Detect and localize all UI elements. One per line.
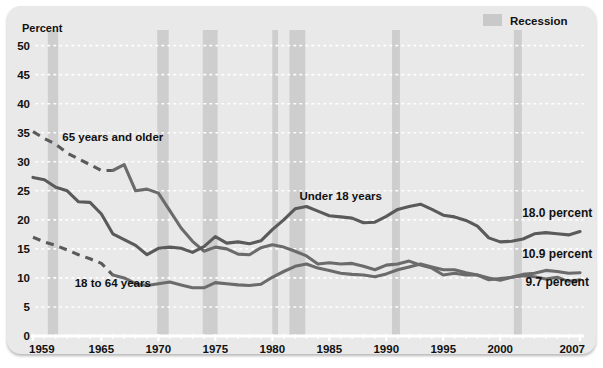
x-tick-label: 1965 [89, 343, 115, 355]
chart-annotations: 65 years and olderUnder 18 years18 to 64… [62, 131, 592, 289]
x-tick-label: 1995 [430, 343, 456, 355]
series-line [113, 264, 580, 288]
recession-band [157, 30, 168, 336]
y-tick-label: 45 [17, 69, 30, 81]
gridlines [36, 46, 583, 307]
chart-annotation-label: 65 years and older [62, 131, 164, 143]
y-tick-label: 40 [17, 98, 30, 110]
x-tick-label: 1970 [146, 343, 172, 355]
y-tick-label: 35 [17, 127, 30, 139]
y-tick-label: 30 [17, 156, 30, 168]
recession-band [203, 30, 218, 336]
x-tick-label: 1990 [373, 343, 399, 355]
y-tick-label: 10 [17, 272, 30, 284]
x-tick-label: 2000 [487, 343, 513, 355]
y-tick-label: 50 [17, 40, 30, 52]
y-tick-label: 5 [24, 301, 31, 313]
x-tick-label: 2007 [559, 343, 585, 355]
recession-band [289, 30, 305, 336]
y-axis-title: Percent [22, 22, 63, 34]
recession-band [392, 30, 400, 336]
chart-annotation-label: 18.0 percent [522, 206, 592, 220]
x-tick-label: 1959 [29, 343, 55, 355]
x-axis-tick-labels: 1959196519701975198019851990199520002007 [29, 343, 585, 355]
chart-annotation-label: 10.9 percent [522, 247, 592, 261]
y-tick-label: 25 [17, 185, 30, 197]
recession-legend-label: Recession [510, 15, 568, 27]
x-axis [31, 334, 584, 341]
series-line-dashed [33, 237, 113, 275]
series-lines [33, 132, 580, 288]
series-line [113, 165, 580, 282]
chart-annotation-label: 9.7 percent [526, 275, 589, 289]
poverty-rate-line-chart: 05101520253035404550 1959196519701975198… [0, 0, 603, 368]
x-tick-label: 1975 [203, 343, 229, 355]
recession-legend-swatch [483, 14, 502, 26]
chart-canvas: 05101520253035404550 1959196519701975198… [0, 0, 603, 368]
y-tick-label: 0 [24, 330, 30, 342]
chart-page: 05101520253035404550 1959196519701975198… [0, 0, 603, 368]
y-axis-tick-labels: 05101520253035404550 [17, 40, 30, 342]
recession-bands [48, 30, 522, 336]
chart-annotation-label: 18 to 64 years [75, 277, 151, 289]
recession-band [272, 30, 278, 336]
y-tick-label: 20 [17, 214, 30, 226]
recession-band [514, 30, 522, 336]
chart-annotation-label: Under 18 years [299, 190, 381, 202]
x-tick-label: 1985 [316, 343, 342, 355]
x-tick-label: 1980 [260, 343, 286, 355]
y-tick-label: 15 [17, 243, 30, 255]
